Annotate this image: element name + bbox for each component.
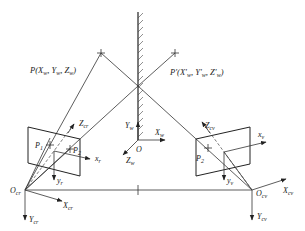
label-ycv: Ycv	[257, 212, 267, 222]
label-xcr: Xcr	[62, 201, 74, 211]
label-origin-o: O	[136, 145, 142, 154]
label-xv: xv	[257, 130, 265, 140]
label-p1: P1	[34, 141, 43, 151]
label-ocv: Ocv	[256, 189, 267, 199]
label-zw: Zw	[126, 156, 134, 166]
label-p2-right: P2	[195, 154, 204, 164]
label-yv: yv	[226, 176, 234, 186]
label-zcr: Zcr	[79, 119, 89, 129]
baseline	[25, 185, 252, 195]
label-xcv: Xcv	[282, 186, 294, 196]
mirror	[138, 12, 143, 140]
label-yw: Yw	[125, 121, 133, 131]
stereo-mirror-diagram: P(Xw, Yw, Zw) P′(X′w, Y′w, Z′w) Yw Xw O …	[0, 0, 305, 231]
label-p-prime-world: P′(X′w, Y′w, Z′w)	[169, 67, 224, 78]
label-ycr: Ycr	[29, 215, 39, 225]
label-xr: xr	[94, 154, 102, 164]
label-xw: Xw	[154, 128, 164, 138]
label-p-world: P(Xw, Yw, Zw)	[29, 65, 76, 76]
label-ocr: Ocr	[10, 186, 21, 196]
label-yr: yr	[56, 176, 64, 186]
label-zcv: Zcv	[205, 121, 215, 131]
diagram-canvas: P(Xw, Yw, Zw) P′(X′w, Y′w, Z′w) Yw Xw O …	[0, 0, 305, 231]
